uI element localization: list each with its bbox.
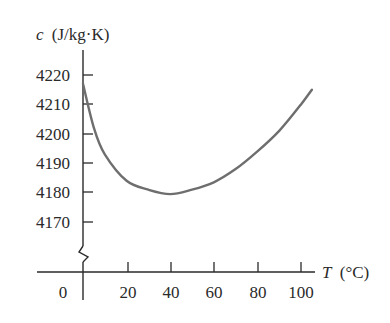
y-axis-label: c (J/kg·K) — [36, 25, 109, 44]
x-tick-labels: 0 20 40 60 80 100 — [59, 283, 314, 302]
y-tick-label: 4180 — [36, 183, 70, 202]
x-axis-variable: T — [322, 263, 333, 282]
y-axis-variable: c — [36, 25, 44, 44]
y-tick-label: 4170 — [36, 213, 70, 232]
x-ticks — [128, 262, 301, 272]
y-tick-label: 4220 — [36, 66, 70, 85]
x-axis-label: T (°C) — [322, 263, 369, 282]
y-axis-unit: (J/kg·K) — [52, 25, 110, 44]
x-tick-label: 20 — [120, 283, 137, 302]
x-tick-label: 100 — [288, 283, 314, 302]
y-tick-labels: 4220 4210 4200 4190 4180 4170 — [36, 66, 70, 232]
y-tick-label: 4190 — [36, 154, 70, 173]
x-axis-unit: (°C) — [340, 263, 369, 282]
chart-canvas: c (J/kg·K) 4220 4210 4200 4190 4180 4170… — [0, 0, 390, 323]
x-tick-label: 60 — [206, 283, 223, 302]
y-tick-label: 4200 — [36, 125, 70, 144]
x-tick-label: 40 — [163, 283, 180, 302]
x-tick-label: 0 — [59, 283, 68, 302]
axis-break-icon — [79, 246, 88, 262]
y-tick-label: 4210 — [36, 95, 70, 114]
x-tick-label: 80 — [250, 283, 267, 302]
y-ticks — [83, 75, 93, 222]
data-curve — [83, 84, 312, 194]
